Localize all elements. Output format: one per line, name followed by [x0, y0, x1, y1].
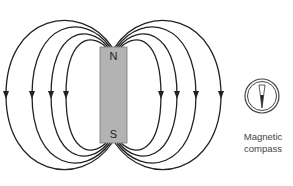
caption-line-1: Magnetic: [238, 131, 288, 143]
compass-caption: Magnetic compass: [238, 131, 288, 155]
arrow-down-icon: [158, 91, 164, 99]
arrow-down-icon: [48, 91, 54, 99]
field-line-right-2: [117, 27, 196, 163]
caption-line-2: compass: [238, 143, 288, 155]
south-pole-label: S: [100, 128, 127, 140]
field-line-right-3: [119, 34, 177, 156]
arrow-down-icon: [29, 91, 35, 99]
arrow-down-icon: [63, 91, 69, 99]
arrow-down-icon: [174, 91, 180, 99]
arrow-down-icon: [3, 91, 9, 99]
arrow-down-icon: [193, 91, 199, 99]
field-line-left-2: [32, 27, 110, 163]
north-pole-label: N: [100, 50, 127, 62]
arrow-down-icon: [218, 91, 224, 99]
field-line-left-1: [6, 20, 112, 169]
compass-icon: [245, 79, 279, 113]
magnetic-field-diagram: [0, 0, 293, 186]
field-line-right-1: [115, 20, 221, 169]
